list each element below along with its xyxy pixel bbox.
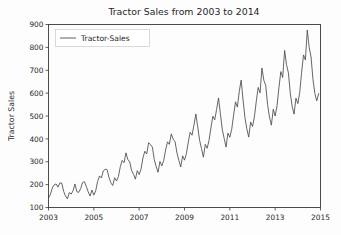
- x-tick-label: 2015: [311, 213, 330, 222]
- data-series-group: [49, 30, 319, 199]
- y-tick-label: 600: [29, 89, 43, 98]
- x-tick-label: 2005: [84, 213, 103, 222]
- chart-legend[interactable]: Tractor-Sales: [56, 30, 150, 47]
- y-tick-label: 900: [29, 20, 43, 29]
- y-tick-label: 800: [29, 43, 43, 52]
- y-tick-label: 300: [29, 157, 43, 166]
- x-tick-label: 2013: [266, 213, 285, 222]
- y-tick-label: 400: [29, 135, 43, 144]
- y-tick-label: 200: [29, 180, 43, 189]
- x-tick-label: 2011: [220, 213, 239, 222]
- x-tick-label: 2009: [175, 213, 194, 222]
- y-axis-ticks: 100200300400500600700800900: [29, 20, 48, 212]
- chart-title: Tractor Sales from 2003 to 2014: [107, 6, 259, 17]
- plot-area-frame: [49, 25, 321, 208]
- y-tick-label: 500: [29, 112, 43, 121]
- series-line-tractor-sales: [49, 30, 319, 199]
- x-axis-ticks: 2003200520072009201120132015: [39, 208, 330, 222]
- x-tick-label: 2007: [130, 213, 149, 222]
- y-tick-label: 700: [29, 66, 43, 75]
- y-axis-title: Tractor Sales: [7, 91, 16, 142]
- y-tick-label: 100: [29, 203, 43, 212]
- chart-figure: Tractor Sales from 2003 to 2014 Tractor …: [0, 0, 341, 235]
- legend-label-tractor-sales: Tractor-Sales: [80, 34, 130, 43]
- x-tick-label: 2003: [39, 213, 58, 222]
- tractor-sales-line-chart: Tractor Sales from 2003 to 2014 Tractor …: [0, 0, 341, 235]
